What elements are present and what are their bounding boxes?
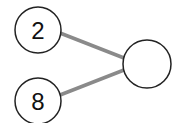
number-bond-diagram: 2 8 bbox=[0, 0, 178, 123]
edge-bottom-to-result bbox=[60, 70, 124, 95]
node-result[interactable] bbox=[123, 40, 171, 88]
node-bottom-label: 8 bbox=[31, 88, 44, 115]
edge-top-to-result bbox=[60, 33, 124, 58]
node-top-label: 2 bbox=[31, 17, 44, 44]
